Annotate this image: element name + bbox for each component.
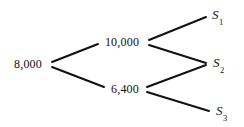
edge-up-to-s2	[149, 45, 206, 63]
leaf-label-s2: S2	[213, 56, 224, 72]
node-root-value: 8,000	[14, 58, 42, 70]
leaf-s2-subscript: 2	[220, 65, 224, 75]
leaf-s3-base: S	[216, 103, 223, 118]
leaf-s3-subscript: 3	[223, 113, 227, 123]
edge-root-to-down	[52, 67, 104, 87]
leaf-label-s1: S1	[212, 8, 223, 24]
edge-down-to-s3	[147, 92, 209, 111]
edge-down-to-s2	[147, 65, 206, 87]
edge-root-to-up	[52, 44, 98, 62]
edge-up-to-s1	[149, 17, 206, 40]
leaf-s1-base: S	[212, 7, 219, 22]
leaf-s1-subscript: 1	[219, 17, 223, 27]
leaf-label-s3: S3	[216, 104, 227, 120]
binomial-tree-diagram: 8,000 10,000 6,400 S1 S2 S3	[0, 0, 244, 127]
node-down-value: 6,400	[111, 83, 139, 95]
node-up-value: 10,000	[105, 36, 139, 48]
leaf-s2-base: S	[213, 55, 220, 70]
